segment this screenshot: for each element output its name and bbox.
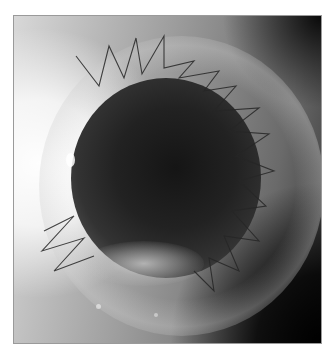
eye-photograph [13, 15, 322, 344]
sutures [14, 16, 322, 344]
